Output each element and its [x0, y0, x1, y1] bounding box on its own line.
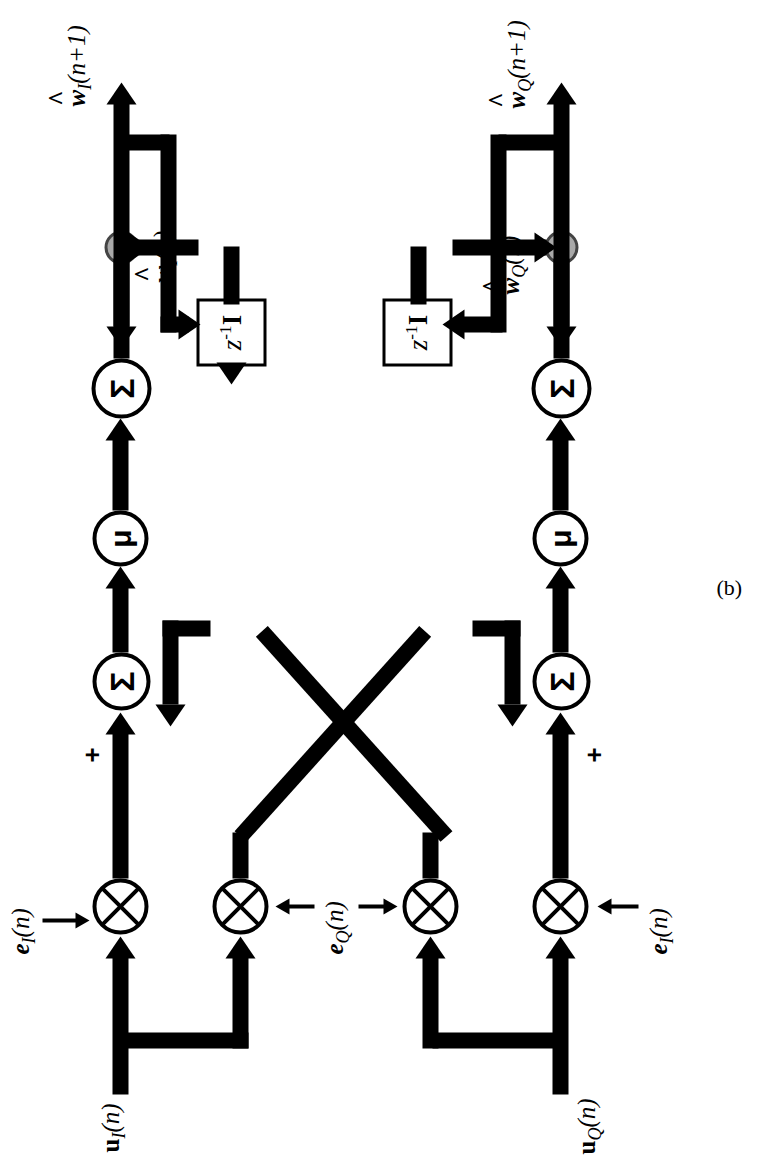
wire-feedback-q-riser [498, 134, 556, 150]
wire-adder-bottom-to-mu [552, 584, 568, 652]
arrowhead-u-q-to-mult-4 [545, 936, 575, 958]
wire-mu-bottom-to-update-adder [552, 436, 568, 510]
wire-feedback-q-drop [462, 316, 502, 332]
multiplier-bottom-2 [532, 878, 588, 934]
arrowhead-cross-up-into-top-adder [155, 704, 185, 726]
arrowhead-into-update-adder-top [105, 418, 135, 440]
wire-u-i-branch-horz [232, 950, 248, 1048]
arrowhead-into-update-adder-bottom [545, 418, 575, 440]
wire-u-q-main [552, 954, 568, 1094]
update-adder-bottom-symbol: Σ [544, 378, 578, 398]
scanned-figure-page: uI(n) eI(n) eQ(n) [0, 0, 771, 1166]
wire-cross-down [234, 626, 431, 842]
arrowhead-u-i-to-mult-2 [225, 936, 255, 958]
adder-top-symbol: Σ [104, 671, 138, 691]
multiplier-bottom-1 [402, 878, 458, 934]
arrowhead-mult1-to-adder-top [105, 712, 135, 734]
label-e-i-n-top: eI(n) [6, 908, 39, 954]
wire-u-q-branch-horz [422, 950, 438, 1048]
arrowhead-u-q-to-mult-3 [415, 936, 445, 958]
arrowhead-feedback-q-into-delay [442, 309, 464, 339]
gain-mu-top: μ [92, 510, 148, 566]
gain-mu-bottom: μ [532, 510, 588, 566]
arrowhead-into-mu-bottom [545, 566, 575, 588]
wire-cross-down-to-bottom-adder [504, 620, 520, 704]
wire-e-i-top [42, 918, 76, 922]
arrowhead-feedback-i-into-delay [178, 309, 200, 339]
label-e-i-n-bottom: eI(n) [644, 908, 677, 954]
update-adder-top: Σ [91, 358, 151, 418]
wire-cross-up-to-top-adder [162, 620, 178, 704]
wire-cross-up [255, 626, 452, 842]
sign-plus-top-adder-a: + [78, 747, 104, 762]
signal-flow-diagram: uI(n) eI(n) eQ(n) [0, 0, 771, 1166]
arrowhead-delay-top-out [216, 362, 246, 384]
wire-delay-top-out [223, 246, 239, 304]
wire-feedback-q-horz [490, 134, 506, 332]
wire-delay-bottom-out [410, 246, 426, 304]
sign-plus-bottom-adder-a: + [580, 747, 606, 762]
arrowhead-cross-down-into-bottom-adder [497, 704, 527, 726]
gain-mu-bottom-symbol: μ [545, 529, 575, 547]
label-e-q-n: eQ(n) [320, 901, 353, 954]
adder-top: Σ [92, 652, 150, 710]
label-w-i-n-plus-1: wI(n+1) [62, 25, 95, 106]
delay-block-bottom-label: z-1I [401, 314, 433, 349]
update-adder-top-symbol: Σ [104, 378, 138, 398]
arrowhead-w-q-n-plus-1 [546, 82, 576, 104]
arrowhead-u-i-to-mult-1 [105, 936, 135, 958]
wire-u-q-branch-vert [432, 1032, 560, 1048]
arrowhead-e-i-bottom [597, 898, 611, 914]
label-w-q-n-plus-1: wQ(n+1) [502, 20, 535, 108]
arrowhead-e-i-top [75, 912, 89, 928]
delay-block-top-label: z-1I [215, 314, 247, 349]
arrowhead-e-q-down [383, 898, 397, 914]
label-u-q-n: uQ(n) [572, 1098, 605, 1154]
adder-bottom-symbol: Σ [544, 671, 578, 691]
multiplier-top-2 [212, 878, 268, 934]
wire-mult3-stub [422, 832, 438, 878]
adder-bottom: Σ [532, 652, 590, 710]
wire-feedback-i-riser [121, 134, 169, 150]
wire-adder-top-to-mu [112, 584, 128, 652]
arrowhead-into-tap-i [128, 232, 150, 262]
wire-mult1-to-adder-top [112, 730, 128, 878]
wire-u-i-branch-vert [120, 1032, 248, 1048]
arrowhead-e-q-up [275, 898, 289, 914]
wire-u-i-main [112, 954, 128, 1094]
update-adder-bottom: Σ [531, 358, 591, 418]
gain-mu-top-symbol: μ [105, 529, 135, 547]
label-u-i-n: uI(n) [96, 1103, 129, 1152]
delay-block-top: z-1I [196, 298, 266, 366]
wire-mu-top-to-update-adder [112, 436, 128, 510]
wire-mult4-to-adder-bottom [552, 730, 568, 878]
figure-caption: (b) [716, 574, 742, 600]
wire-feedback-i-tap-horz [160, 134, 176, 332]
arrowhead-mult4-to-adder-bottom [545, 712, 575, 734]
arrowhead-into-mu-top [105, 566, 135, 588]
delay-block-bottom: z-1I [382, 298, 452, 366]
multiplier-top-1 [92, 878, 148, 934]
arrowhead-w-i-n-plus-1 [106, 82, 136, 104]
